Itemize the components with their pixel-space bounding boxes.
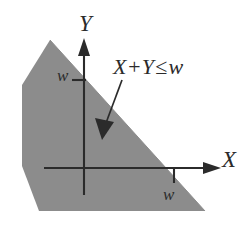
constraint-region-figure: Y X w w X+Y≤w (0, 0, 250, 225)
constraint-annotation: X+Y≤w (113, 56, 183, 78)
y-intercept-label: w (57, 67, 68, 84)
constraint-operator-icon: ≤ (154, 54, 168, 79)
x-axis-arrowhead-icon (203, 162, 221, 174)
figure-canvas (0, 0, 250, 225)
x-intercept-label: w (163, 186, 174, 203)
y-axis-arrowhead-icon (78, 38, 90, 56)
x-axis-label: X (222, 148, 236, 171)
constraint-lhs: X+Y (113, 54, 154, 79)
constraint-rhs: w (168, 54, 183, 79)
y-axis-label: Y (79, 12, 92, 35)
